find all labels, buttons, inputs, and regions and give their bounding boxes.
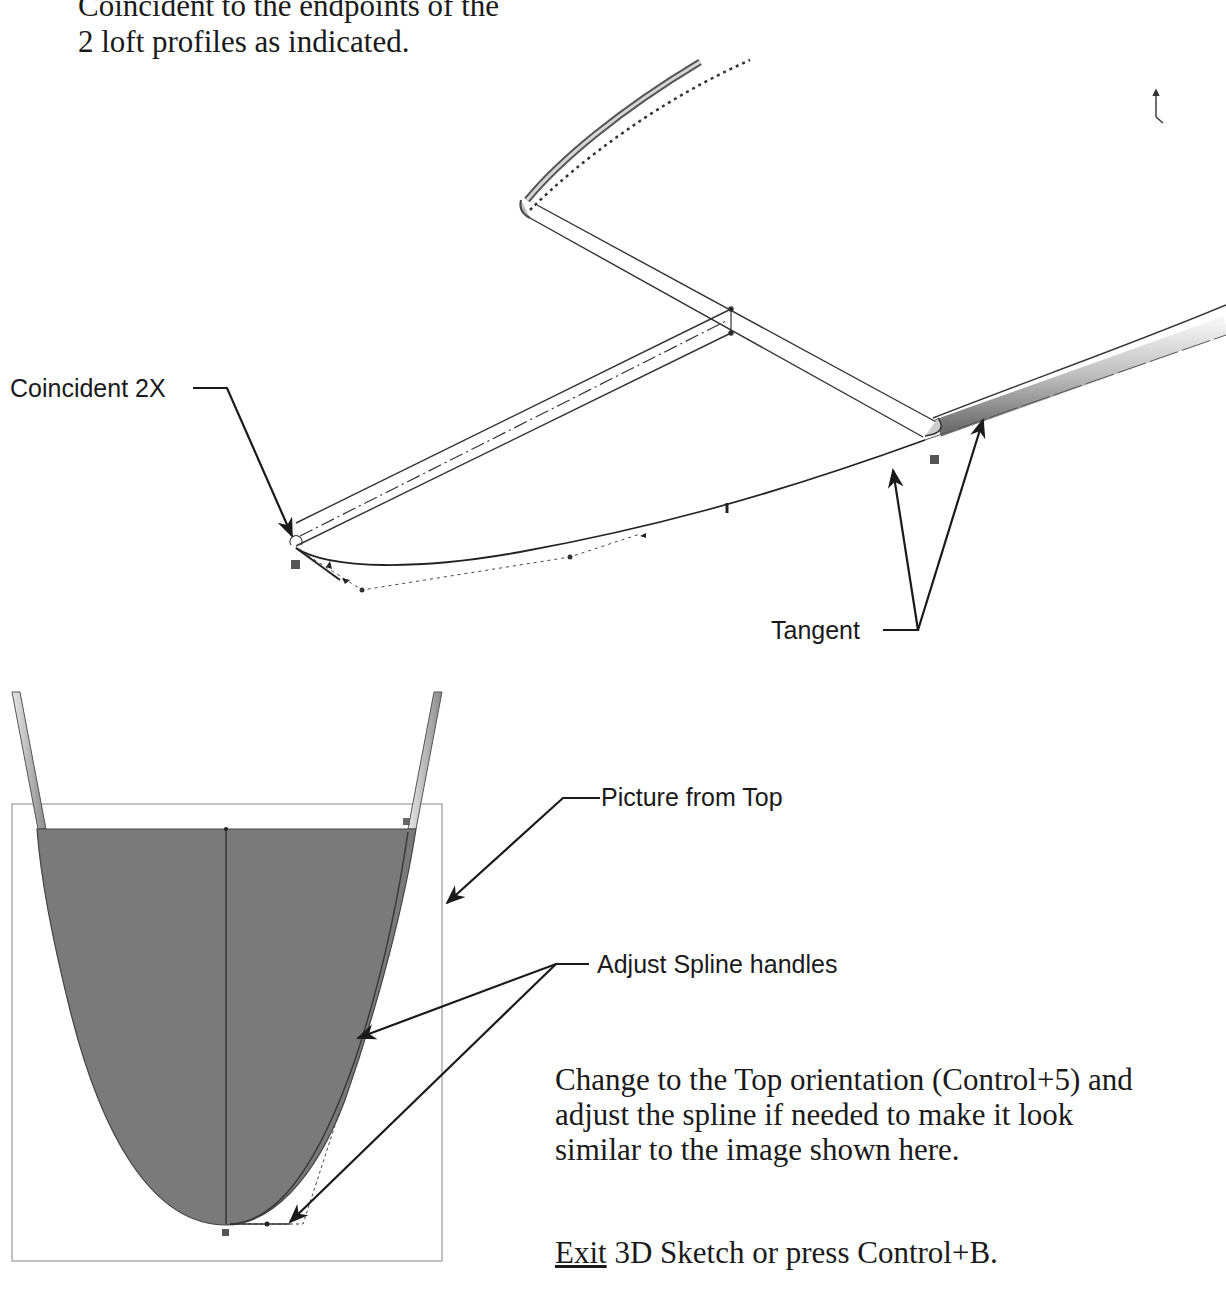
trailing-edge-tube [925,305,1226,436]
instruction-step1-line2: adjust the spline if needed to make it l… [555,1097,1073,1132]
instruction-step1-line3: similar to the image shown here. [555,1132,960,1167]
instruction-step2-rest: 3D Sketch or press Control+B. [607,1235,998,1270]
callout-coincident-2x: Coincident 2X [10,374,166,402]
upper-profile-band [530,205,940,437]
shaded-top-profile [37,829,416,1225]
callout-tangent: Tangent [771,616,860,644]
exit-keyword: Exit [555,1235,607,1270]
leading-edge-tube [520,60,750,218]
instruction-step1-line1: Change to the Top orientation (Control+5… [555,1062,1133,1097]
origin-point-marker [291,560,300,569]
tangent-point-marker [930,455,939,464]
tangent-leaders [883,420,983,630]
callout-picture-from-top: Picture from Top [601,783,783,811]
callout-adjust-spline-handles: Adjust Spline handles [597,950,837,978]
top-view-frame [12,804,442,1261]
axis-triad-icon [1153,90,1163,123]
coincident-leader [193,388,292,536]
wing-3d-sketch-figure [0,0,1226,660]
lower-profile-band [296,307,733,546]
instruction-step2: Exit 3D Sketch or press Control+B. [555,1235,998,1270]
